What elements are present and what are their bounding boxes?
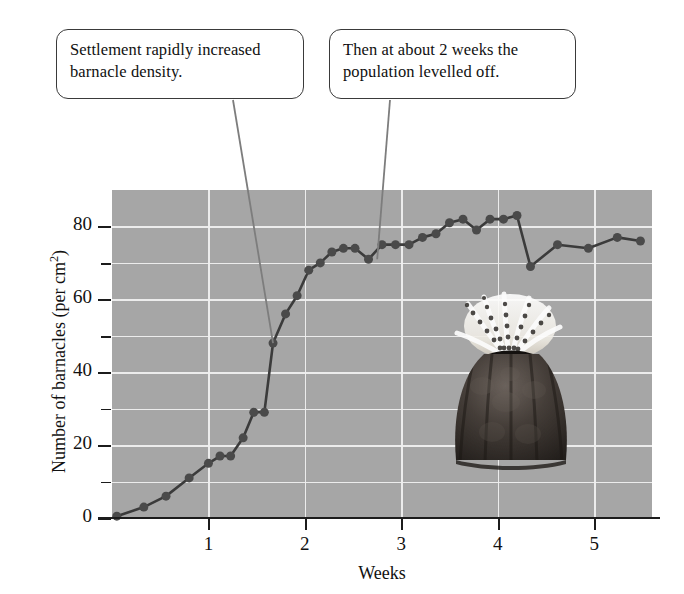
x-tick [305,519,307,530]
data-point [216,452,225,461]
callout-settlement: Settlement rapidly increased barnacle de… [56,29,304,99]
data-point [364,255,373,264]
data-point [584,244,593,253]
x-tick [498,519,500,530]
y-axis-label: Number of barnacles (per cm2) [47,192,70,532]
x-tick-label: 4 [478,533,518,555]
data-point [472,226,481,235]
data-point [459,215,468,224]
y-tick [98,226,111,228]
data-point [226,452,235,461]
data-point [281,309,290,318]
callout-levelled-line2: population levelled off. [343,61,563,83]
data-point [293,291,302,300]
y-tick-minor [101,482,111,484]
data-point [391,240,400,249]
x-tick-label: 2 [285,533,325,555]
data-point [185,473,194,482]
x-tick-label: 3 [381,533,421,555]
y-axis-label-exponent: 2 [47,256,61,262]
y-axis-label-tail: ) [49,250,69,256]
data-point [239,433,248,442]
data-point [513,211,522,220]
x-tick [208,519,210,530]
data-point [636,237,645,246]
callout-levelled: Then at about 2 weeks the population lev… [329,29,576,99]
y-tick [98,299,111,301]
y-tick [98,445,111,447]
x-axis-label: Weeks [112,563,652,584]
data-point [327,247,336,256]
data-point [378,240,387,249]
y-tick [98,372,111,374]
x-tick-label: 5 [574,533,614,555]
callout-settlement-line1: Settlement rapidly increased [70,39,291,61]
data-point [351,244,360,253]
data-point [499,215,508,224]
callout-levelled-line1: Then at about 2 weeks the [343,39,563,61]
y-tick-minor [101,336,111,338]
data-point [162,492,171,501]
data-point [204,459,213,468]
data-point [553,240,562,249]
figure-root: 12345 020406080 Weeks Number of barnacle… [0,0,684,594]
data-point [139,503,148,512]
x-tick-label: 1 [188,533,228,555]
y-axis-label-text: Number of barnacles (per cm [49,262,69,473]
data-point [432,229,441,238]
callout-settlement-line2: barnacle density. [70,61,291,83]
data-point [418,233,427,242]
data-point [316,258,325,267]
data-point [613,233,622,242]
data-point [339,244,348,253]
data-point [486,215,495,224]
y-tick [98,518,111,520]
data-series [112,190,652,518]
y-tick-minor [101,263,111,265]
x-tick [401,519,403,530]
data-point [526,262,535,271]
data-point [260,408,269,417]
x-axis-line [98,517,660,519]
series-line [117,216,641,517]
data-point [249,408,258,417]
data-point [304,266,313,275]
data-point [405,240,414,249]
data-point [269,339,278,348]
x-tick [594,519,596,530]
y-tick-minor [101,409,111,411]
data-point [445,218,454,227]
